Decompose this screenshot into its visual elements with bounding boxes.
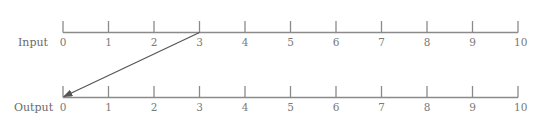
number-line-diagram: Input 012345678910 Output 012345678910 [0, 0, 539, 118]
output-axis-tick-label: 0 [60, 101, 67, 113]
output-axis-tick-label: 10 [514, 101, 527, 113]
input-axis-tick-label: 1 [105, 36, 112, 48]
output-axis-tick-label: 1 [105, 101, 112, 113]
output-axis-tick-label: 5 [287, 101, 294, 113]
input-axis-tick-label: 6 [333, 36, 340, 48]
input-axis-tick-label: 2 [151, 36, 158, 48]
output-axis-tick-label: 7 [378, 101, 385, 113]
output-axis-tick-label: 6 [333, 101, 340, 113]
input-axis-tick-label: 3 [196, 36, 203, 48]
mapping-arrow [64, 33, 200, 97]
input-axis: 012345678910 [60, 21, 528, 48]
output-axis-tick-label: 9 [469, 101, 476, 113]
input-axis-tick-label: 4 [242, 36, 249, 48]
input-axis-tick-label: 8 [424, 36, 431, 48]
input-axis-tick-label: 10 [514, 36, 527, 48]
output-axis-label: Output [14, 101, 54, 114]
output-axis-tick-label: 4 [242, 101, 249, 113]
input-axis-tick-label: 5 [287, 36, 294, 48]
input-axis-tick-label: 0 [60, 36, 67, 48]
input-axis-tick-label: 9 [469, 36, 476, 48]
output-axis-tick-label: 2 [151, 101, 158, 113]
output-axis-tick-label: 8 [424, 101, 431, 113]
input-axis-label: Input [18, 36, 49, 49]
output-axis-tick-label: 3 [196, 101, 203, 113]
input-axis-tick-label: 7 [378, 36, 385, 48]
output-axis: 012345678910 [60, 86, 528, 113]
